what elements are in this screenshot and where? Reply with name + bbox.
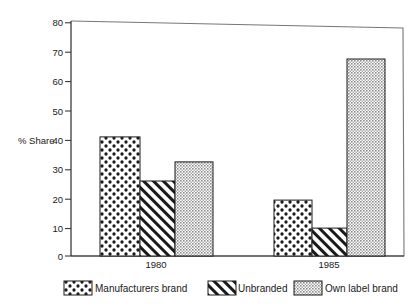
legend-label-own-label-brand: Own label brand: [325, 283, 398, 294]
bar-1980-own-label-brand: [175, 162, 213, 256]
y-tick-label-10: 10: [52, 223, 63, 234]
legend-item-manufacturers-brand: Manufacturers brand: [64, 281, 187, 295]
legend-swatch-diagonal-hatch-icon: [208, 281, 236, 295]
y-tick-label-20: 20: [52, 194, 63, 205]
bar-1985-unbranded: [312, 228, 347, 256]
x-category-label-1985: 1985: [318, 259, 339, 270]
bar-1985-manufacturers-brand: [274, 200, 312, 256]
legend-swatch-stipple-icon: [294, 281, 322, 295]
bar-1980-manufacturers-brand: [100, 137, 140, 256]
y-tick-label-30: 30: [52, 164, 63, 175]
x-category-label-1980: 1980: [145, 259, 166, 270]
legend-item-own-label-brand: Own label brand: [294, 281, 398, 295]
y-tick-label-60: 60: [52, 76, 63, 87]
legend-label-manufacturers-brand: Manufacturers brand: [95, 283, 187, 294]
legend: Manufacturers brand Unbranded Own label …: [64, 281, 398, 295]
bar-chart: 0 10 20 30 40 50 60 70 80 % Share 1980 1…: [0, 0, 420, 307]
legend-swatch-polka-dot-icon: [64, 281, 92, 295]
chart-canvas: 0 10 20 30 40 50 60 70 80 % Share 1980 1…: [0, 0, 420, 307]
y-tick-label-70: 70: [52, 47, 63, 58]
legend-label-unbranded: Unbranded: [238, 283, 287, 294]
y-axis-title: % Share: [18, 135, 54, 146]
bar-1980-unbranded: [140, 181, 175, 256]
y-tick-label-0: 0: [58, 251, 63, 262]
legend-item-unbranded: Unbranded: [208, 281, 287, 295]
y-axis: [65, 21, 71, 256]
y-tick-label-50: 50: [52, 106, 63, 117]
y-tick-label-80: 80: [52, 17, 63, 28]
bar-1985-own-label-brand: [347, 59, 385, 256]
